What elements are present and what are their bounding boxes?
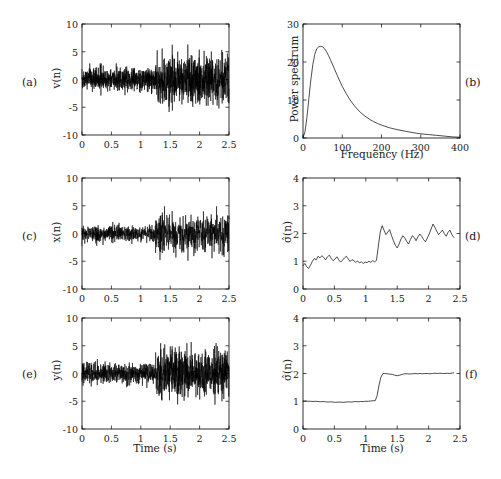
y-tick-label: 0 bbox=[48, 228, 78, 239]
data-trace-f bbox=[303, 373, 454, 402]
y-tick-label: 4 bbox=[269, 173, 299, 184]
panel-c: (c) x(n) 00.511.522.5-10-50510 bbox=[0, 160, 250, 320]
data-trace-e bbox=[82, 342, 229, 405]
x-tick-label: 2 bbox=[426, 433, 432, 444]
x-tick-label: 1.5 bbox=[163, 139, 178, 150]
x-tick-label: 1 bbox=[138, 139, 144, 150]
x-tick-label: 1.5 bbox=[163, 293, 178, 304]
y-tick-label: -10 bbox=[48, 284, 78, 295]
x-tick-label: 0.5 bbox=[327, 433, 342, 444]
x-tick-label: 1 bbox=[363, 433, 369, 444]
y-tick-label: 1 bbox=[269, 256, 299, 267]
x-tick-label: 2.5 bbox=[221, 433, 236, 444]
y-tick-label: 0 bbox=[48, 368, 78, 379]
panel-d: (d) σ̂(n) 00.511.522.501234 bbox=[250, 160, 501, 320]
x-tick-label: 2 bbox=[197, 433, 203, 444]
x-tick-label: 1.5 bbox=[163, 433, 178, 444]
x-tick-label: 1 bbox=[363, 293, 369, 304]
data-trace-a bbox=[82, 45, 229, 112]
data-trace-b bbox=[303, 46, 460, 138]
x-tick-label: 2 bbox=[426, 293, 432, 304]
x-tick-label: 100 bbox=[333, 142, 351, 153]
y-tick-label: 1 bbox=[269, 396, 299, 407]
x-tick-label: 2.5 bbox=[452, 293, 467, 304]
panel-a: (a) v(n) 00.511.522.5-10-50510 bbox=[0, 0, 250, 160]
x-tick-label: 300 bbox=[412, 142, 430, 153]
y-tick-label: 3 bbox=[269, 340, 299, 351]
y-tick-label: 10 bbox=[48, 313, 78, 324]
x-tick-label: 0 bbox=[79, 293, 85, 304]
panel-f: (f) σ̂(n) Time (s) 00.511.522.501234 bbox=[250, 320, 501, 479]
x-tick-label: 2.5 bbox=[452, 433, 467, 444]
y-tick-label: 0 bbox=[269, 133, 299, 144]
y-tick-label: 2 bbox=[269, 368, 299, 379]
y-tick-label: -10 bbox=[48, 130, 78, 141]
y-tick-label: 5 bbox=[48, 200, 78, 211]
x-tick-label: 400 bbox=[451, 142, 469, 153]
y-tick-label: 10 bbox=[269, 95, 299, 106]
x-tick-label: 0.5 bbox=[104, 433, 119, 444]
y-tick-label: 0 bbox=[269, 424, 299, 435]
x-tick-label: 1.5 bbox=[390, 433, 405, 444]
x-tick-label: 0 bbox=[300, 433, 306, 444]
x-tick-label: 0 bbox=[79, 139, 85, 150]
x-tick-label: 2 bbox=[197, 293, 203, 304]
x-tick-label: 0.5 bbox=[104, 139, 119, 150]
plot-frame bbox=[303, 178, 460, 289]
y-tick-label: 3 bbox=[269, 200, 299, 211]
y-tick-label: 0 bbox=[269, 284, 299, 295]
panel-a-axes bbox=[0, 0, 250, 160]
x-tick-label: 0 bbox=[79, 433, 85, 444]
data-trace-c bbox=[82, 206, 229, 260]
x-tick-label: 1 bbox=[138, 433, 144, 444]
panel-c-axes bbox=[0, 160, 250, 320]
y-tick-label: 10 bbox=[48, 173, 78, 184]
y-tick-label: 4 bbox=[269, 313, 299, 324]
y-tick-label: 0 bbox=[48, 74, 78, 85]
x-tick-label: 1 bbox=[138, 293, 144, 304]
x-tick-label: 0 bbox=[300, 142, 306, 153]
y-tick-label: 10 bbox=[48, 19, 78, 30]
y-tick-label: 5 bbox=[48, 46, 78, 57]
y-tick-label: -5 bbox=[48, 102, 78, 113]
x-tick-label: 2.5 bbox=[221, 293, 236, 304]
x-tick-label: 200 bbox=[372, 142, 390, 153]
y-tick-label: -10 bbox=[48, 424, 78, 435]
panel-e-axes bbox=[0, 320, 250, 479]
x-tick-label: 2 bbox=[197, 139, 203, 150]
y-tick-label: -5 bbox=[48, 256, 78, 267]
panel-e: (e) y(n) Time (s) 00.511.522.5-10-50510 bbox=[0, 320, 250, 479]
plot-frame bbox=[303, 24, 460, 138]
y-tick-label: 2 bbox=[269, 228, 299, 239]
y-tick-label: 5 bbox=[48, 340, 78, 351]
y-tick-label: 30 bbox=[269, 19, 299, 30]
figure-canvas: (a) v(n) 00.511.522.5-10-50510 (b) Power… bbox=[0, 0, 501, 479]
x-tick-label: 0 bbox=[300, 293, 306, 304]
x-tick-label: 0.5 bbox=[327, 293, 342, 304]
data-trace-d bbox=[303, 224, 454, 268]
x-tick-label: 2.5 bbox=[221, 139, 236, 150]
x-tick-label: 1.5 bbox=[390, 293, 405, 304]
x-tick-label: 0.5 bbox=[104, 293, 119, 304]
y-tick-label: 20 bbox=[269, 57, 299, 68]
panel-b: (b) Power spectrum Frequency (Hz) 010020… bbox=[250, 0, 501, 165]
y-tick-label: -5 bbox=[48, 396, 78, 407]
